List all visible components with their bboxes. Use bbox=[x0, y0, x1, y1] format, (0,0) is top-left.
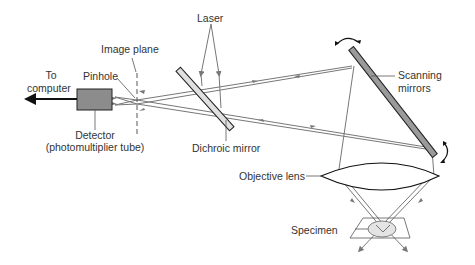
label-dichroic-mirror: Dichroic mirror bbox=[192, 142, 260, 154]
label-objective-lens: Objective lens bbox=[239, 170, 305, 182]
objective-lens bbox=[321, 163, 439, 190]
image-plane-leader bbox=[132, 58, 136, 72]
label-specimen: Specimen bbox=[291, 224, 338, 236]
label-detector: Detector bbox=[45, 129, 145, 141]
label-computer: computer bbox=[27, 82, 71, 94]
specimen bbox=[368, 221, 396, 237]
scanning-mirror bbox=[349, 47, 437, 158]
label-laser: Laser bbox=[197, 12, 223, 24]
label-scanning: Scanning bbox=[398, 69, 442, 81]
label-to: To bbox=[44, 69, 58, 81]
label-mirrors: mirrors bbox=[398, 82, 431, 94]
detector-box bbox=[77, 89, 112, 110]
confocal-diagram: Laser Image plane To computer Pinhole De… bbox=[0, 0, 475, 265]
rotate-arrow-bottom-icon bbox=[442, 143, 448, 162]
dichroic-mirror bbox=[176, 67, 234, 130]
label-image-plane: Image plane bbox=[101, 43, 159, 55]
rotate-arrow-top-icon bbox=[337, 38, 358, 44]
label-pinhole: Pinhole bbox=[83, 70, 118, 82]
label-detector-sub: (photomultiplier tube) bbox=[35, 141, 155, 153]
pinhole-leader bbox=[117, 78, 135, 98]
